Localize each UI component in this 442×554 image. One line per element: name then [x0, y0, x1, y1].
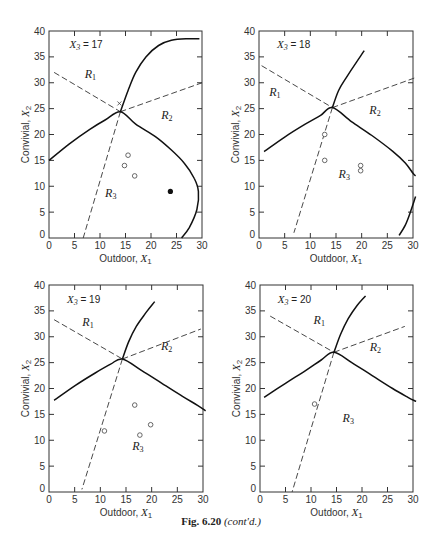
- plot-x3-17: 0510152025300510152025303540Outdoor, X1C…: [19, 26, 208, 267]
- y-axis-label: Convivial, X2: [19, 105, 33, 163]
- dashed-boundary: [292, 352, 334, 492]
- y-axis-label: Convivial, X2: [230, 359, 244, 417]
- solid-boundary: [334, 296, 366, 352]
- plot-x3-19: 0510152025300510152025303540Outdoor, X1C…: [19, 280, 209, 521]
- y-tick-label: 40: [244, 26, 256, 37]
- solid-boundary: [122, 302, 154, 359]
- open-data-point: [148, 422, 153, 427]
- y-tick-label: 5: [249, 207, 255, 218]
- figure-canvas: 0510152025300510152025303540Outdoor, X1C…: [0, 0, 442, 554]
- x-tick-label: 10: [305, 240, 317, 251]
- region-label-r3: R3: [338, 167, 350, 182]
- open-data-point: [138, 433, 143, 438]
- x-axis-label: Outdoor, X1: [99, 252, 152, 266]
- x-tick-label: 10: [305, 494, 317, 505]
- x-tick-label: 5: [282, 240, 288, 251]
- region-label-r3: R3: [131, 439, 143, 454]
- x-tick-label: 15: [330, 240, 342, 251]
- x-tick-label: 15: [120, 240, 132, 251]
- plot-frame: [49, 31, 202, 238]
- open-data-point: [122, 163, 127, 168]
- figure-caption: Fig. 6.20 (cont'd.): [0, 515, 442, 527]
- y-tick-label: 40: [245, 280, 257, 291]
- solid-boundary: [264, 352, 416, 401]
- solid-boundary: [120, 39, 199, 112]
- y-tick-label: 30: [244, 77, 256, 88]
- region-label-r1: R1: [268, 85, 280, 100]
- y-tick-label: 15: [34, 155, 46, 166]
- plot-title: X3 = 20: [277, 293, 312, 307]
- plot-frame: [259, 31, 413, 238]
- dashed-boundary: [294, 108, 333, 233]
- open-data-point: [322, 132, 327, 137]
- open-data-point: [132, 403, 137, 408]
- x-tick-label: 15: [120, 494, 132, 505]
- x-tick-label: 30: [196, 240, 208, 251]
- y-tick-label: 20: [34, 383, 46, 394]
- y-tick-label: 40: [34, 280, 46, 291]
- cross-data-point: [117, 101, 121, 105]
- y-axis-label: Convivial, X2: [19, 359, 33, 417]
- x-tick-label: 10: [94, 240, 106, 251]
- y-tick-label: 20: [245, 383, 257, 394]
- x-tick-label: 20: [146, 494, 158, 505]
- caption-note: (cont'd.): [224, 515, 261, 527]
- x-tick-label: 25: [171, 240, 183, 251]
- y-tick-label: 5: [39, 461, 45, 472]
- y-tick-label: 0: [39, 483, 45, 494]
- x-tick-label: 0: [256, 240, 262, 251]
- plot-title: X3 = 18: [276, 38, 311, 52]
- y-tick-label: 5: [250, 461, 256, 472]
- y-tick-label: 25: [245, 357, 257, 368]
- plot-title: X3 = 19: [66, 293, 101, 307]
- y-tick-label: 10: [34, 435, 46, 446]
- y-tick-label: 35: [34, 305, 46, 316]
- y-tick-label: 40: [34, 26, 46, 37]
- plot-title: X3 = 17: [68, 38, 103, 52]
- x-tick-label: 0: [46, 494, 52, 505]
- region-label-r2: R2: [160, 339, 172, 354]
- y-tick-label: 0: [249, 229, 255, 240]
- filled-data-point: [168, 189, 173, 194]
- y-tick-label: 10: [244, 181, 256, 192]
- y-tick-label: 35: [244, 51, 256, 62]
- region-label-r1: R1: [84, 67, 96, 82]
- y-tick-label: 0: [250, 483, 256, 494]
- region-label-r3: R3: [342, 411, 354, 426]
- y-tick-label: 20: [34, 129, 46, 140]
- x-tick-label: 25: [382, 240, 394, 251]
- region-label-r1: R1: [313, 313, 325, 328]
- x-tick-label: 0: [257, 494, 263, 505]
- region-label-r2: R2: [368, 103, 380, 118]
- x-tick-label: 5: [72, 240, 78, 251]
- x-tick-label: 5: [72, 494, 78, 505]
- y-tick-label: 10: [245, 435, 257, 446]
- open-data-point: [126, 153, 131, 158]
- x-tick-label: 20: [145, 240, 157, 251]
- region-label-r2: R2: [369, 340, 381, 355]
- open-data-point: [322, 158, 327, 163]
- open-data-point: [358, 163, 363, 168]
- x-tick-label: 10: [95, 494, 107, 505]
- y-tick-label: 20: [244, 129, 256, 140]
- y-axis-label: Convivial, X2: [229, 105, 243, 163]
- plot-frame: [260, 285, 413, 492]
- x-axis-label: Outdoor, X1: [310, 252, 363, 266]
- solid-boundary: [332, 51, 364, 108]
- dashed-boundary: [82, 359, 123, 489]
- solid-boundary: [49, 112, 199, 238]
- y-tick-label: 5: [39, 207, 45, 218]
- y-tick-label: 15: [34, 409, 46, 420]
- x-tick-label: 0: [46, 240, 52, 251]
- open-data-point: [358, 168, 363, 173]
- y-tick-label: 30: [34, 77, 46, 88]
- region-label-r2: R2: [160, 108, 172, 123]
- x-tick-label: 20: [356, 240, 368, 251]
- x-tick-label: 25: [172, 494, 184, 505]
- x-tick-label: 30: [407, 494, 419, 505]
- region-label-r1: R1: [81, 315, 93, 330]
- caption-fig-number: Fig. 6.20: [181, 515, 221, 527]
- x-tick-label: 30: [407, 240, 419, 251]
- y-tick-label: 30: [34, 331, 46, 342]
- y-tick-label: 25: [34, 357, 46, 368]
